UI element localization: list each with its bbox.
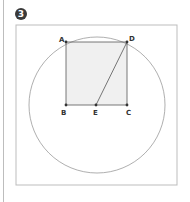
geometry-figure: ADBEC bbox=[0, 0, 190, 202]
label-c: C bbox=[126, 109, 131, 117]
point-c bbox=[126, 104, 129, 107]
point-b bbox=[65, 104, 68, 107]
point-d bbox=[126, 41, 129, 44]
label-a: A bbox=[59, 36, 65, 44]
square-fill bbox=[66, 42, 127, 105]
point-e bbox=[95, 104, 98, 107]
label-d: D bbox=[129, 35, 135, 43]
label-b: B bbox=[61, 109, 66, 117]
point-a bbox=[65, 41, 68, 44]
label-e: E bbox=[93, 109, 98, 117]
